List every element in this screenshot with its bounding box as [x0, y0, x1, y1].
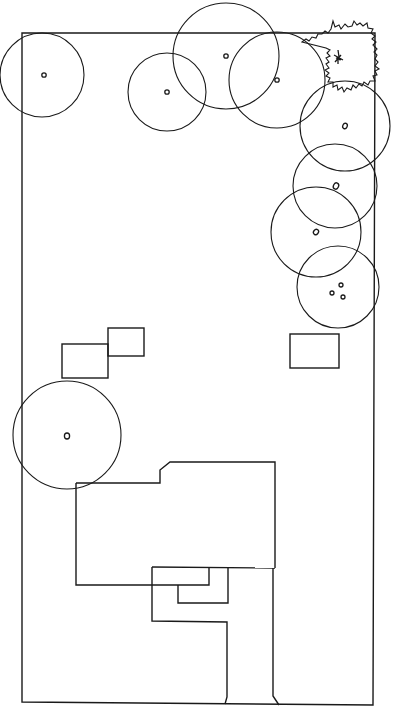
tree-trunk-icon [165, 90, 169, 94]
shed-right [290, 334, 339, 368]
tree-6 [293, 144, 377, 228]
tree-canopy [300, 81, 390, 171]
tree-3 [173, 3, 279, 109]
garage-outline [152, 567, 227, 704]
tree-8 [297, 246, 379, 328]
tree-canopy [173, 3, 279, 109]
tree-canopy [271, 187, 361, 277]
tree-trunk-icon [275, 78, 279, 82]
tree-trunk-icon [224, 54, 228, 58]
shrub-center-icon [334, 50, 343, 64]
tree-5 [300, 81, 390, 171]
tree-trunk-icon [312, 228, 319, 235]
shed-left-upper [108, 328, 144, 356]
driveway-edge [273, 568, 279, 705]
tree-canopy [293, 144, 377, 228]
house-rear-line [152, 567, 275, 568]
house-wing [76, 483, 209, 585]
tree-7 [271, 187, 361, 277]
tree-trunk-icon [339, 283, 343, 287]
tree-1 [0, 33, 84, 117]
property-boundary [22, 33, 375, 705]
tree-canopy [229, 32, 325, 128]
tree-trunk-icon [342, 123, 348, 130]
site-plan-diagram [0, 0, 394, 716]
tree-trunk-icon [330, 291, 334, 295]
shed-left [62, 344, 108, 378]
tree-2 [128, 53, 206, 131]
tree-trunk-icon [341, 295, 345, 299]
house-outline [76, 462, 275, 568]
house-footprint [76, 462, 279, 705]
tree-trunk-icon [42, 73, 46, 77]
tree-canopy [128, 53, 206, 131]
tree-canopy [13, 381, 121, 489]
tree-9 [13, 381, 121, 489]
tree-4 [229, 32, 325, 128]
tree-trunk-icon [64, 433, 69, 439]
tree-canopy [297, 246, 379, 328]
tree-trunk-icon [332, 182, 339, 190]
